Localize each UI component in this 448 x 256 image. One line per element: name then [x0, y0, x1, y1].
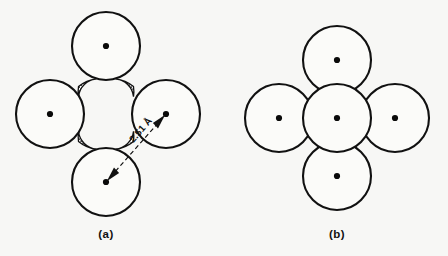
- atom-center-dot-left: [276, 115, 282, 121]
- atom-center-dot-left: [47, 111, 53, 117]
- atom-center-dot-top: [103, 43, 109, 49]
- diagram-canvas: 2.51 Å (a) (b): [0, 0, 448, 256]
- atom-center-dot-top: [334, 57, 340, 63]
- figure-root: 2.51 Å (a) (b): [0, 0, 448, 256]
- atom-center-dot-center: [334, 115, 340, 121]
- atom-center-dot-right: [392, 115, 398, 121]
- panel-caption-a: (a): [98, 228, 113, 240]
- panel-caption-b: (b): [329, 228, 345, 240]
- atom-center-dot-bottom: [334, 173, 340, 179]
